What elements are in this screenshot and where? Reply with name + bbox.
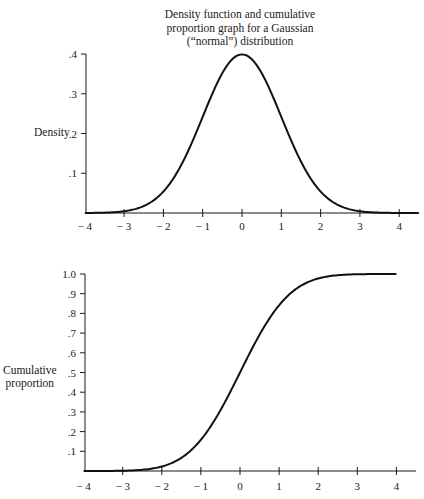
density-curve — [85, 54, 419, 213]
cumulative-x-tick-label: − 4 — [76, 480, 91, 492]
cumulative-y-tick-label: .1 — [68, 445, 76, 457]
density-y-tick-label: .1 — [69, 167, 77, 179]
density-y-tick-label: .3 — [69, 88, 78, 100]
density-x-tick-label: 1 — [279, 220, 285, 232]
cumulative-chart: .1.2.3.4.5.6.7.8.91.0− 4− 3− 2− 101234 — [62, 268, 416, 492]
cumulative-y-tick-label: .8 — [68, 307, 77, 319]
density-x-tick-label: − 2 — [156, 220, 170, 232]
cumulative-x-tick-label: − 2 — [155, 480, 169, 492]
cumulative-x-tick-label: 0 — [237, 480, 243, 492]
density-y-tick-label: .4 — [69, 48, 78, 60]
density-x-tick-label: 3 — [357, 220, 363, 232]
cumulative-x-tick-label: 3 — [355, 480, 361, 492]
cumulative-y-tick-label: 1.0 — [62, 268, 76, 280]
density-y-tick-label: .2 — [69, 128, 77, 140]
cumulative-x-tick-label: 2 — [315, 480, 321, 492]
cumulative-curve — [84, 274, 397, 471]
cumulative-y-tick-label: .3 — [68, 406, 77, 418]
density-x-tick-label: − 4 — [78, 220, 93, 232]
cumulative-y-tick-label: .6 — [68, 347, 77, 359]
density-x-tick-label: − 1 — [195, 220, 209, 232]
density-x-tick-label: 0 — [239, 220, 245, 232]
chart-canvas: .1.2.3.4− 4− 3− 2− 101234 .1.2.3.4.5.6.7… — [0, 0, 424, 499]
cumulative-x-tick-label: − 1 — [194, 480, 208, 492]
density-x-tick-label: 4 — [396, 220, 402, 232]
cumulative-x-tick-label: 4 — [394, 480, 400, 492]
cumulative-y-tick-label: .7 — [68, 327, 77, 339]
cumulative-x-tick-label: 1 — [276, 480, 282, 492]
cumulative-y-tick-label: .5 — [68, 367, 77, 379]
density-x-tick-label: − 3 — [117, 220, 132, 232]
cumulative-y-tick-label: .4 — [68, 386, 77, 398]
density-chart: .1.2.3.4− 4− 3− 2− 101234 — [69, 48, 419, 232]
cumulative-y-tick-label: .9 — [68, 288, 77, 300]
density-x-tick-label: 2 — [318, 220, 324, 232]
cumulative-y-tick-label: .2 — [68, 426, 76, 438]
cumulative-x-tick-label: − 3 — [115, 480, 130, 492]
